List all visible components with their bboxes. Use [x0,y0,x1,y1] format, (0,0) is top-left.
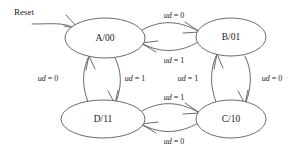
transition-d-to-c-path [142,104,198,112]
edge-label-b-to-a: ud = 1 [150,56,195,65]
edge-label-b-to-a-value: = 1 [172,56,185,65]
state-node-c[interactable]: C/10 [196,100,266,138]
edge-label-b-to-c-value: = 0 [270,74,283,83]
edge-label-c-to-b: ud = 1 [164,74,209,83]
edge-label-a-to-b-value: = 0 [172,11,185,20]
state-node-d[interactable]: D/11 [61,100,145,138]
edge-label-b-to-c: ud = 0 [248,74,293,83]
state-label-a: A/00 [96,33,115,43]
transition-d-to-a-arrow-head [86,56,95,70]
transition-c-to-d [141,122,198,133]
transition-d-to-c [142,103,200,114]
state-label-d: D/11 [94,114,113,124]
state-node-b[interactable]: B/01 [196,18,266,56]
edge-label-a-to-d: ud = 1 [111,74,156,83]
edge-label-d-to-a: ud = 0 [24,74,69,83]
state-label-c: C/10 [222,114,241,124]
edge-label-c-to-d: ud = 0 [150,137,195,146]
edge-label-c-to-d-value: = 0 [172,137,185,146]
state-diagram-canvas: Reset [0,0,295,152]
edge-label-d-to-c-value: = 1 [172,93,185,102]
transition-d-to-a [84,56,96,102]
state-transition-diagram: Reset [0,0,295,152]
edge-label-a-to-d-value: = 1 [133,74,146,83]
reset-label: Reset [14,7,34,17]
transition-a-to-b-path [142,23,198,31]
state-label-b: B/01 [222,32,241,42]
reset-transition: Reset [14,7,79,29]
edge-label-d-to-c: ud = 1 [150,93,195,102]
transition-c-to-b-arrow-head [214,54,223,69]
transition-c-to-b [212,54,224,102]
transition-a-to-b [142,22,200,33]
edge-label-a-to-b: ud = 0 [150,11,195,20]
state-node-a[interactable]: A/00 [65,18,145,58]
transition-b-to-a [141,41,198,52]
edge-label-d-to-a-value: = 0 [46,74,59,83]
edge-label-c-to-b-value: = 1 [186,74,199,83]
